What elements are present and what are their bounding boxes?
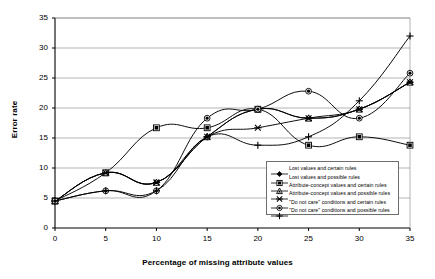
y-axis-title: Error rate xyxy=(10,75,19,165)
x-tick-label: 35 xyxy=(398,234,422,243)
chart-legend: Lost values and certain rulesLost values… xyxy=(266,161,399,215)
x-tick-label: 0 xyxy=(43,234,67,243)
legend-label: Lost values and certain rules xyxy=(289,165,356,171)
y-tick-label: 20 xyxy=(26,103,48,112)
legend-marker-open-triangle-icon xyxy=(270,181,289,189)
legend-label: Attribute-concept values and possible ru… xyxy=(289,190,390,196)
legend-marker-open-circle-icon xyxy=(270,198,289,206)
legend-label: Attribute-concept values and certain rul… xyxy=(289,182,387,188)
legend-item[interactable]: "Do not care" conditions and certain rul… xyxy=(267,198,398,206)
legend-marker-plus-icon xyxy=(270,206,289,214)
legend-marker-cross-x-icon xyxy=(270,189,289,197)
legend-label: "Do not care" conditions and certain rul… xyxy=(289,199,386,205)
x-tick-label: 30 xyxy=(347,234,371,243)
y-tick-label: 15 xyxy=(26,133,48,142)
legend-marker-open-square-icon xyxy=(270,173,289,181)
x-axis-title: Percentage of missing attribute values xyxy=(0,258,435,267)
legend-label: Lost values and possible rules xyxy=(289,174,360,180)
x-tick-label: 15 xyxy=(195,234,219,243)
y-tick-label: 10 xyxy=(26,163,48,172)
y-tick-label: 35 xyxy=(26,13,48,22)
y-tick-label: 0 xyxy=(26,223,48,232)
legend-label: "Do not care" conditions and possible ru… xyxy=(289,207,390,213)
x-tick-label: 5 xyxy=(94,234,118,243)
x-tick-label: 10 xyxy=(144,234,168,243)
y-tick-label: 5 xyxy=(26,193,48,202)
y-tick-label: 30 xyxy=(26,43,48,52)
legend-item[interactable]: Lost values and certain rules xyxy=(267,164,398,172)
legend-item[interactable]: Attribute-concept values and possible ru… xyxy=(267,189,398,197)
y-tick-label: 25 xyxy=(26,73,48,82)
legend-item[interactable]: Attribute-concept values and certain rul… xyxy=(267,181,398,189)
chart-container: 05101520253035 05101520253035 Error rate… xyxy=(0,0,435,279)
legend-item[interactable]: Lost values and possible rules xyxy=(267,172,398,180)
x-tick-label: 25 xyxy=(297,234,321,243)
x-tick-label: 20 xyxy=(246,234,270,243)
legend-item[interactable]: "Do not care" conditions and possible ru… xyxy=(267,206,398,214)
legend-marker-filled-diamond-icon xyxy=(270,164,289,172)
